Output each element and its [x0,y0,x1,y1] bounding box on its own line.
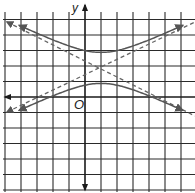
hyperbola-graph [0,0,195,193]
origin-label: O [74,98,84,111]
y-axis-label: y [72,2,78,14]
